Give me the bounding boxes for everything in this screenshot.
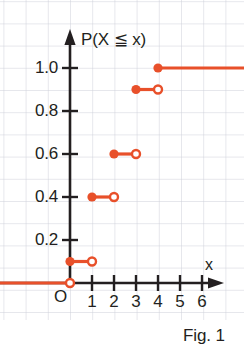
closed-endpoints [65, 63, 162, 266]
y-tick-label-0.6: 0.6 [14, 145, 58, 162]
x-tick-label-4: 4 [146, 293, 170, 310]
figure-caption: Fig. 1 [183, 326, 225, 346]
closed-point-x3 [131, 85, 140, 94]
y-tick-label-0.4: 0.4 [14, 188, 58, 205]
y-tick-label-0.8: 0.8 [14, 102, 58, 119]
open-point-origin [66, 279, 74, 287]
open-point-x2 [110, 193, 118, 201]
x-tick-label-6: 6 [190, 293, 214, 310]
y-axis-title: P(X ≦ x) [81, 31, 146, 48]
x-tick-label-5: 5 [168, 293, 192, 310]
x-tick-label-1: 1 [80, 293, 104, 310]
x-tick-label-2: 2 [102, 293, 126, 310]
open-endpoints [66, 86, 162, 288]
x-axis-title: x [205, 257, 213, 273]
open-point-x4 [154, 86, 162, 94]
origin-label: O [54, 288, 67, 305]
x-tick-label-3: 3 [124, 293, 148, 310]
closed-point-x0 [65, 257, 74, 266]
y-tick-label-0.2: 0.2 [14, 231, 58, 248]
open-point-x3 [132, 150, 140, 158]
open-point-x1 [88, 258, 96, 266]
closed-point-x2 [109, 149, 118, 158]
y-tick-label-1.0: 1.0 [14, 59, 58, 76]
closed-point-x4 [153, 63, 162, 72]
closed-point-x1 [87, 192, 96, 201]
figure-container: P(X ≦ x) 1.0 0.8 0.6 0.4 0.2 O 1 2 3 4 5… [0, 0, 244, 353]
